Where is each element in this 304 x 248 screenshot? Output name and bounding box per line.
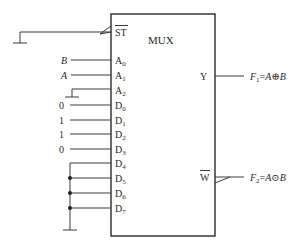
f2-expression: F2=A⊙B — [249, 172, 286, 185]
data-pin-d5: D5 — [70, 173, 126, 186]
d6-label: D6 — [115, 188, 126, 201]
a1-label: A1 — [115, 70, 126, 83]
d7-label: D7 — [115, 203, 126, 216]
a0-label: A0 — [115, 55, 126, 68]
data-pin-d3: 0 D3 — [59, 144, 126, 157]
st-label: ST — [115, 27, 127, 38]
data-pin-d1: 1 D1 — [59, 115, 126, 128]
address-pin-a0: B A0 — [61, 55, 126, 68]
output-w-bar: W F2=A⊙B — [200, 171, 286, 186]
input-b-label: B — [61, 55, 67, 66]
d3-value: 0 — [59, 144, 64, 155]
w-inversion-marker — [215, 177, 230, 183]
y-label: Y — [200, 71, 207, 82]
ground-bus — [63, 163, 77, 230]
address-pin-a2: A2 — [65, 85, 126, 98]
mux-circuit-diagram: MUX ST B A0 A A1 A2 0 D0 1 D1 1 — [0, 0, 304, 248]
d1-value: 1 — [59, 115, 64, 126]
f1-expression: F1=A⊕B — [249, 71, 286, 84]
data-pin-d4: D4 — [70, 158, 126, 171]
data-pin-d0: 0 D0 — [59, 100, 126, 113]
mux-chip-body — [111, 14, 215, 236]
st-inversion-marker — [100, 26, 111, 34]
d2-value: 1 — [59, 129, 64, 140]
d1-label: D1 — [115, 115, 126, 128]
address-pin-a1: A A1 — [60, 70, 126, 83]
data-pin-d6: D6 — [70, 188, 126, 201]
d2-label: D2 — [115, 129, 126, 142]
data-pin-d2: 1 D2 — [59, 129, 126, 142]
w-label: W — [200, 172, 210, 183]
output-y: Y F1=A⊕B — [200, 71, 286, 84]
mux-title: MUX — [148, 34, 174, 46]
input-a-label: A — [60, 70, 68, 81]
d0-label: D0 — [115, 100, 126, 113]
data-pin-d7: D7 — [70, 203, 126, 216]
d5-label: D5 — [115, 173, 126, 186]
d3-label: D3 — [115, 144, 126, 157]
d0-value: 0 — [59, 100, 64, 111]
a2-label: A2 — [115, 85, 126, 98]
d4-label: D4 — [115, 158, 126, 171]
